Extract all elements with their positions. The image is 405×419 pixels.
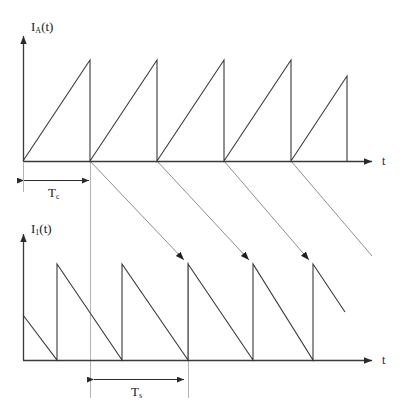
top-x-axis-label: t xyxy=(382,155,385,167)
top-y-axis-label-suffix: (t) xyxy=(41,19,53,34)
bottom-waveform-path xyxy=(23,264,345,360)
bottom-y-axis-label-suffix: (t) xyxy=(39,221,51,236)
top-waveform-sawtooth xyxy=(23,60,347,161)
top-waveform-path xyxy=(23,60,347,161)
diagram-canvas xyxy=(0,0,405,419)
tc-label-main: T xyxy=(48,185,56,200)
bottom-waveform-sawtooth xyxy=(23,264,345,360)
waveform-timing-diagram: IA(t) t Tc I1(t) t Ts xyxy=(0,0,405,419)
bottom-plot-axes xyxy=(23,234,372,361)
ts-label: Ts xyxy=(131,385,142,398)
connector-arrow-1 xyxy=(90,161,184,260)
ts-label-main: T xyxy=(131,384,139,399)
tc-label-sub: c xyxy=(56,192,60,201)
connector-arrows xyxy=(90,161,372,260)
top-plot-axes xyxy=(23,36,372,162)
tc-label: Tc xyxy=(48,186,60,199)
bottom-y-axis-label: I1(t) xyxy=(31,222,52,235)
connector-arrow-4 xyxy=(291,161,372,256)
top-y-axis-label: IA(t) xyxy=(31,20,53,33)
top-y-axis-label-sub: A xyxy=(35,26,41,35)
bottom-y-axis-label-sub: 1 xyxy=(35,228,39,237)
connector-arrow-3 xyxy=(224,161,309,260)
bottom-x-axis-label: t xyxy=(382,354,385,366)
guide-lines xyxy=(91,161,189,398)
connector-arrow-2 xyxy=(157,161,249,260)
ts-label-sub: s xyxy=(139,391,142,400)
